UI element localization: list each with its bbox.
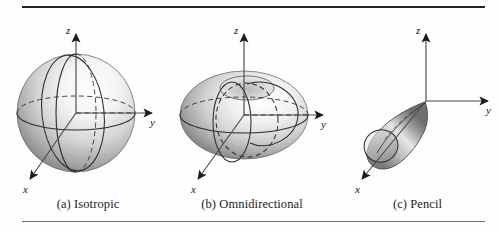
top-divider-rule — [22, 6, 485, 8]
panel-omnidirectional: z y x — [168, 12, 336, 198]
figure-root: z y x — [0, 0, 499, 231]
z-axis-label: z — [65, 24, 71, 36]
pencil-diagram: z y x — [336, 12, 499, 198]
omnidirectional-diagram: z y x — [168, 12, 336, 198]
panel-isotropic: z y x — [4, 12, 172, 198]
bottom-divider-rule — [22, 221, 485, 222]
x-axis-label: x — [190, 183, 196, 195]
x-axis-label: x — [354, 183, 360, 195]
caption-isotropic: (a) Isotropic — [4, 197, 172, 212]
y-axis-label: y — [485, 104, 491, 116]
x-axis-label: x — [22, 183, 28, 195]
caption-pencil: (c) Pencil — [336, 197, 499, 212]
panel-pencil: z y x — [336, 12, 499, 198]
y-axis-label: y — [320, 118, 326, 130]
isotropic-diagram: z y x — [4, 12, 172, 198]
z-axis-label: z — [415, 24, 421, 36]
caption-omnidirectional: (b) Omnidirectional — [168, 197, 336, 212]
y-axis-label: y — [149, 116, 155, 128]
z-axis-label: z — [233, 24, 239, 36]
